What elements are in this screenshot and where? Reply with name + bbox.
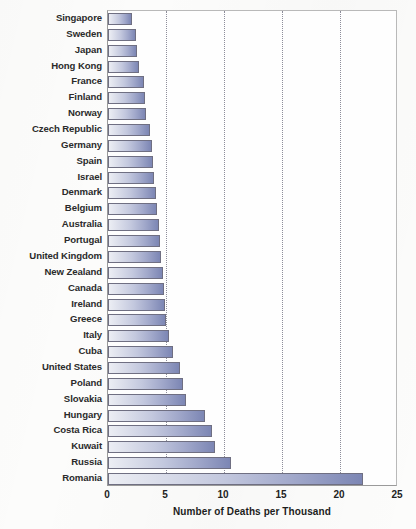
bar-row <box>108 122 396 138</box>
bar-hong-kong <box>108 61 139 73</box>
y-label-spain: Spain <box>0 155 102 166</box>
bar-row <box>108 265 396 281</box>
bar-france <box>108 76 144 88</box>
y-axis-category-labels: SingaporeSwedenJapanHong KongFranceFinla… <box>0 10 102 486</box>
bar-row <box>108 106 396 122</box>
bar-row <box>108 74 396 90</box>
y-label-germany: Germany <box>0 139 102 150</box>
bar-greece <box>108 314 166 326</box>
bar-row <box>108 455 396 471</box>
bar-row <box>108 90 396 106</box>
x-tick-10: 10 <box>217 489 228 500</box>
y-label-cuba: Cuba <box>0 345 102 356</box>
bar-row <box>108 392 396 408</box>
bar-row <box>108 439 396 455</box>
bar-poland <box>108 378 183 390</box>
y-label-japan: Japan <box>0 44 102 55</box>
x-tick-15: 15 <box>275 489 286 500</box>
bar-row <box>108 471 396 487</box>
x-tick-5: 5 <box>162 489 168 500</box>
bar-portugal <box>108 235 160 247</box>
bar-hungary <box>108 410 205 422</box>
y-label-romania: Romania <box>0 472 102 483</box>
x-axis-title: Number of Deaths per Thousand <box>107 506 397 517</box>
bar-canada <box>108 283 164 295</box>
y-label-united-states: United States <box>0 361 102 372</box>
bar-row <box>108 59 396 75</box>
bar-row <box>108 138 396 154</box>
bar-cuba <box>108 346 173 358</box>
bar-row <box>108 408 396 424</box>
bar-new-zealand <box>108 267 163 279</box>
y-label-czech-republic: Czech Republic <box>0 123 102 134</box>
y-label-poland: Poland <box>0 377 102 388</box>
y-label-hungary: Hungary <box>0 409 102 420</box>
y-label-united-kingdom: United Kingdom <box>0 250 102 261</box>
bar-romania <box>108 473 363 485</box>
y-label-italy: Italy <box>0 329 102 340</box>
bar-row <box>108 154 396 170</box>
bar-row <box>108 217 396 233</box>
x-tick-20: 20 <box>333 489 344 500</box>
y-label-denmark: Denmark <box>0 186 102 197</box>
chart-figure: SingaporeSwedenJapanHong KongFranceFinla… <box>0 0 416 529</box>
y-label-kuwait: Kuwait <box>0 440 102 451</box>
bar-row <box>108 233 396 249</box>
y-label-hong-kong: Hong Kong <box>0 60 102 71</box>
bar-finland <box>108 92 145 104</box>
x-tick-0: 0 <box>104 489 110 500</box>
bar-sweden <box>108 29 136 41</box>
bar-czech-republic <box>108 124 150 136</box>
bar-israel <box>108 172 154 184</box>
y-label-slovakia: Slovakia <box>0 393 102 404</box>
y-label-greece: Greece <box>0 313 102 324</box>
bar-united-states <box>108 362 180 374</box>
y-label-sweden: Sweden <box>0 28 102 39</box>
bar-row <box>108 249 396 265</box>
y-label-canada: Canada <box>0 282 102 293</box>
y-label-norway: Norway <box>0 107 102 118</box>
bar-singapore <box>108 13 132 25</box>
y-label-singapore: Singapore <box>0 12 102 23</box>
bar-row <box>108 201 396 217</box>
bar-slovakia <box>108 394 186 406</box>
y-label-ireland: Ireland <box>0 298 102 309</box>
bar-italy <box>108 330 169 342</box>
bar-denmark <box>108 187 156 199</box>
y-label-portugal: Portugal <box>0 234 102 245</box>
bar-row <box>108 297 396 313</box>
y-label-finland: Finland <box>0 91 102 102</box>
bar-row <box>108 11 396 27</box>
bar-row <box>108 360 396 376</box>
bar-row <box>108 43 396 59</box>
y-label-belgium: Belgium <box>0 202 102 213</box>
bar-united-kingdom <box>108 251 161 263</box>
bar-row <box>108 344 396 360</box>
bar-row <box>108 27 396 43</box>
bar-australia <box>108 219 159 231</box>
bar-ireland <box>108 299 165 311</box>
bar-japan <box>108 45 137 57</box>
bar-kuwait <box>108 441 215 453</box>
bar-costa-rica <box>108 425 212 437</box>
bar-row <box>108 328 396 344</box>
bar-spain <box>108 156 153 168</box>
bar-row <box>108 376 396 392</box>
bar-series <box>108 11 396 485</box>
y-label-australia: Australia <box>0 218 102 229</box>
bar-row <box>108 186 396 202</box>
x-tick-25: 25 <box>391 489 402 500</box>
bar-row <box>108 281 396 297</box>
bar-russia <box>108 457 231 469</box>
bar-row <box>108 312 396 328</box>
bar-row <box>108 170 396 186</box>
bar-row <box>108 424 396 440</box>
plot-area <box>107 10 397 486</box>
y-label-costa-rica: Costa Rica <box>0 424 102 435</box>
bar-germany <box>108 140 152 152</box>
bar-norway <box>108 108 146 120</box>
y-label-new-zealand: New Zealand <box>0 266 102 277</box>
y-label-france: France <box>0 75 102 86</box>
y-label-israel: Israel <box>0 171 102 182</box>
y-label-russia: Russia <box>0 456 102 467</box>
